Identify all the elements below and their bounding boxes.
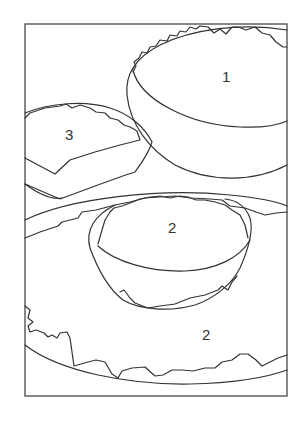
region-label-plate-spread: 2 — [202, 327, 210, 342]
large-bowl-shape — [127, 26, 287, 178]
plate-rim-bottom — [25, 345, 287, 384]
spread-top-edge — [25, 196, 287, 238]
region-label-block: 3 — [65, 127, 73, 142]
region-label-small-bowl: 2 — [168, 220, 176, 235]
food-portion-illustration: 1 3 2 2 — [0, 0, 308, 431]
figure-frame — [25, 24, 287, 396]
line-drawing — [0, 0, 308, 431]
spread-bottom-edge — [25, 306, 287, 378]
region-label-large-bowl: 1 — [222, 69, 230, 84]
small-bowl-shape — [89, 196, 252, 309]
